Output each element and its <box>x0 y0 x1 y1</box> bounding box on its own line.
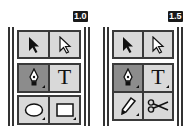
panel-rail-right <box>88 27 90 126</box>
pen-tool-button[interactable] <box>17 63 50 93</box>
flyout-indicator <box>42 117 45 120</box>
arrow-solid-icon <box>121 36 135 54</box>
pen-tool-button[interactable] <box>112 63 144 93</box>
flyout-indicator <box>42 85 45 88</box>
direct-selection-tool-button[interactable] <box>142 30 174 59</box>
version-badge-1-5: 1.5 <box>168 11 183 22</box>
scissors-icon <box>147 99 169 113</box>
type-tool-button[interactable]: T <box>48 63 81 93</box>
type-tool-button[interactable]: T <box>142 63 174 93</box>
selection-tool-button[interactable] <box>17 30 50 59</box>
rectangle-icon <box>56 103 74 117</box>
panel-rail-left <box>8 27 10 126</box>
flyout-indicator <box>136 85 139 88</box>
panel-rail-right-inner <box>177 27 179 126</box>
pen-nib-icon <box>28 68 40 88</box>
selection-tool-button[interactable] <box>112 30 144 59</box>
direct-selection-tool-button[interactable] <box>48 30 81 59</box>
pencil-icon <box>120 97 136 115</box>
flyout-indicator <box>136 113 139 116</box>
flyout-indicator <box>73 117 76 120</box>
version-badge-1-0: 1.0 <box>73 11 88 22</box>
flyout-indicator <box>166 85 169 88</box>
toolbox-panel-1-5: T <box>103 27 183 126</box>
arrow-hollow-icon <box>151 36 165 54</box>
ellipse-icon <box>24 103 44 118</box>
ellipse-tool-button[interactable] <box>17 95 50 125</box>
pen-nib-icon <box>122 68 134 88</box>
scissors-tool-button[interactable] <box>142 91 174 121</box>
panel-rail-right-inner <box>84 27 86 126</box>
arrow-hollow-icon <box>58 36 72 54</box>
panel-rail-left-inner <box>107 27 109 126</box>
panel-rail-left-inner <box>12 27 14 126</box>
type-icon: T <box>50 64 79 90</box>
pencil-tool-button[interactable] <box>112 91 144 121</box>
toolbox-panel-1-0: T <box>8 27 90 126</box>
arrow-solid-icon <box>27 36 41 54</box>
panel-rail-left <box>103 27 105 126</box>
rectangle-tool-button[interactable] <box>48 95 81 125</box>
panel-rail-right <box>181 27 183 126</box>
